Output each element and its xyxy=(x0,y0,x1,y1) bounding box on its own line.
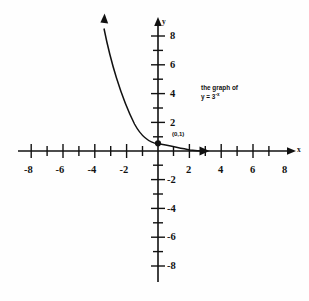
annotation-equation-exponent: -x xyxy=(215,92,219,97)
x-tick-label-2: 2 xyxy=(186,165,191,176)
curve-right-arrowhead-icon xyxy=(200,147,210,156)
exponential-curve xyxy=(104,29,204,152)
y-tick-label-6: 6 xyxy=(170,60,175,71)
y-tick-label-4: 4 xyxy=(170,89,175,100)
coordinate-plane-svg xyxy=(0,0,309,301)
point-marker-0-1 xyxy=(155,140,161,146)
graph-figure: y x -8 -6 -4 -2 2 4 6 8 8 6 4 2 -2 -4 -6… xyxy=(0,0,309,301)
x-tick-label-4: 4 xyxy=(218,165,223,176)
y-tick-label-8: 8 xyxy=(170,31,175,42)
annotation-line-1: the graph of xyxy=(201,83,238,92)
y-tick-label--6: -6 xyxy=(167,232,176,243)
graph-annotation: the graph of y = 3-x xyxy=(201,83,238,102)
x-tick-label--4: -4 xyxy=(88,165,97,176)
y-axis-arrowhead-icon xyxy=(154,17,162,26)
y-axis-label: y xyxy=(162,18,166,26)
point-label-0-1: (0,1) xyxy=(172,131,184,137)
y-tick-label--4: -4 xyxy=(167,204,176,215)
x-axis-label: x xyxy=(297,146,301,154)
x-tick-label--2: -2 xyxy=(120,165,129,176)
annotation-equation-base: y = 3 xyxy=(201,93,215,100)
y-tick-label-2: 2 xyxy=(170,118,175,129)
curve-upper-arrowhead-icon xyxy=(100,14,108,24)
y-tick-label--2: -2 xyxy=(167,175,176,186)
y-tick-label--8: -8 xyxy=(167,261,176,272)
x-tick-label--6: -6 xyxy=(56,165,65,176)
annotation-equation: y = 3-x xyxy=(201,92,238,101)
x-tick-label-6: 6 xyxy=(250,165,255,176)
x-tick-label-8: 8 xyxy=(282,165,287,176)
x-axis-arrowhead-icon xyxy=(287,147,296,155)
x-tick-label--8: -8 xyxy=(24,165,33,176)
